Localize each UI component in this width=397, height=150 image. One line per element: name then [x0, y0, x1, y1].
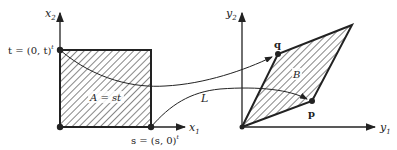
area-a-label: A = st	[89, 92, 122, 103]
origin-point	[57, 124, 63, 130]
y2-axis-label: y2	[225, 7, 237, 22]
point-p	[309, 98, 315, 104]
map-label-l: L	[200, 92, 208, 105]
point-p-label: p	[308, 108, 315, 119]
linear-map-diagram: x2 x1 t = (0, t)t s = (s, 0)t A = st L y…	[0, 0, 397, 150]
point-q	[275, 51, 281, 57]
square-region-a	[60, 50, 151, 127]
x2-axis-label: x2	[45, 7, 56, 22]
origin-point-right	[240, 125, 245, 130]
y1-axis-label: y1	[379, 121, 391, 136]
x1-axis-label: x1	[189, 121, 200, 136]
area-b-label: B	[292, 69, 300, 80]
point-q-label: q	[274, 39, 281, 50]
point-t-label: t = (0, t)t	[8, 43, 54, 56]
point-s-label: s = (s, 0)t	[131, 133, 180, 146]
right-plot: y2 y1 q p B	[225, 7, 391, 136]
